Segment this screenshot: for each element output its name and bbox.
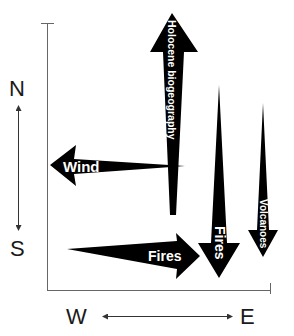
volcanoes-label: Volcanoes xyxy=(258,199,269,249)
west-east-indicator: W E xyxy=(66,304,255,329)
north-label: N xyxy=(9,76,25,101)
wind-arrow: Wind xyxy=(50,145,185,186)
fires-south-arrow: Fires xyxy=(198,85,240,278)
south-label: S xyxy=(10,236,25,261)
west-label: W xyxy=(66,304,87,329)
east-label: E xyxy=(240,304,255,329)
holocene-biogeography-arrow: Holocene biogeography xyxy=(150,13,198,215)
fires-east-label: Fires xyxy=(148,248,182,264)
holocene-label: Holocene biogeography xyxy=(166,20,178,140)
wind-label: Wind xyxy=(63,158,100,175)
fires-east-arrow: Fires xyxy=(67,233,200,279)
fires-south-label: Fires xyxy=(212,226,228,260)
diagram-canvas: N S W E Wind Holocene biogeography Fires… xyxy=(0,0,294,336)
volcanoes-arrow: Volcanoes xyxy=(248,103,278,257)
north-south-indicator: N S xyxy=(9,76,25,261)
